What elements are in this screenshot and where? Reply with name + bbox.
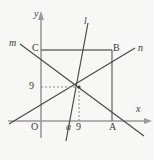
- x-axis-label: x: [136, 104, 140, 114]
- point-a-label: A: [109, 122, 116, 132]
- y-axis: [38, 11, 44, 138]
- line-n-label: n: [138, 43, 143, 53]
- point-c-label: C: [32, 43, 39, 53]
- line-l-label: l: [84, 16, 87, 26]
- line-n: [9, 48, 135, 124]
- geometry-figure: y x O l m n A B C 9 a 9: [0, 0, 154, 160]
- intersection-point-marker: [77, 85, 80, 88]
- y-axis-label: y: [34, 9, 38, 19]
- y-value-label: 9: [29, 81, 34, 91]
- origin-label: O: [31, 122, 38, 132]
- x-param-label: a: [66, 122, 71, 132]
- line-m-label: m: [9, 38, 16, 48]
- point-b-label: B: [113, 43, 120, 53]
- figure-canvas: [0, 0, 154, 160]
- x-value-label: 9: [76, 122, 81, 132]
